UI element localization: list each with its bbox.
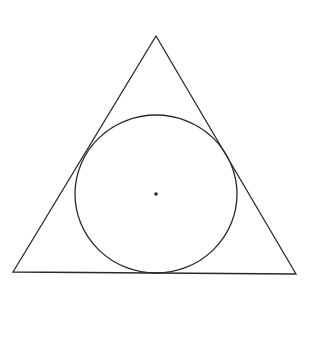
triangle bbox=[13, 36, 296, 274]
center-point bbox=[154, 192, 158, 196]
diagram-canvas bbox=[0, 0, 318, 339]
triangle-incircle-diagram bbox=[0, 0, 318, 339]
